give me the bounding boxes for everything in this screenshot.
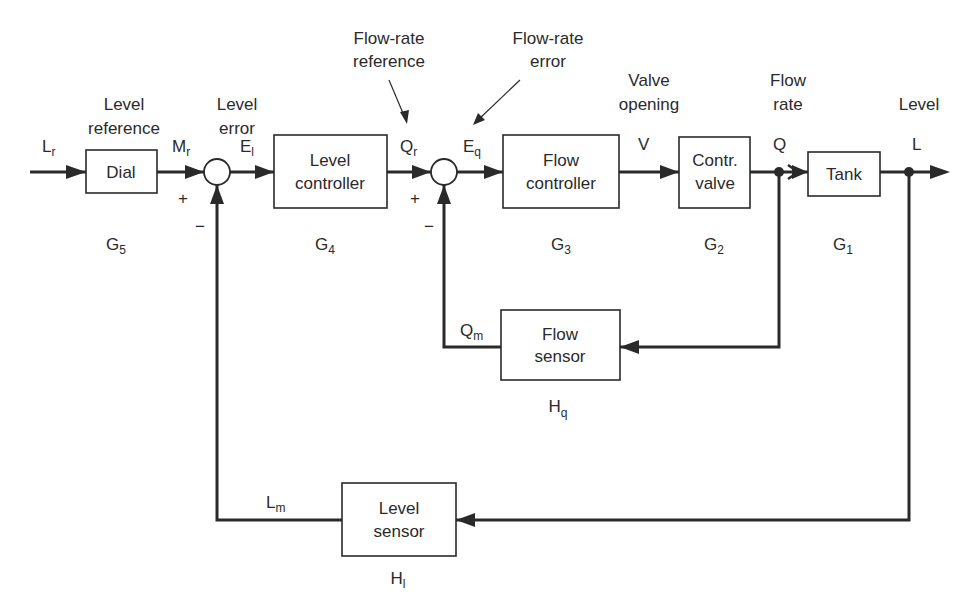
signal-Lm: Lm (266, 493, 285, 515)
annotation-flow-rate-reference: Flow-rate reference (353, 29, 425, 71)
block-dial: Dial G5 (86, 150, 157, 257)
svg-text:rate: rate (773, 95, 802, 114)
svg-text:Level: Level (217, 95, 258, 114)
signal-Qr: Qr (400, 137, 417, 159)
signal-Qm: Qm (460, 321, 483, 343)
svg-text:valve: valve (695, 174, 735, 193)
pointer-flow-rate-error (478, 80, 520, 120)
svg-text:Level: Level (899, 95, 940, 114)
svg-text:error: error (219, 119, 255, 138)
svg-text:Flow: Flow (770, 71, 807, 90)
block-control-valve: Contr. valve G2 (679, 137, 750, 257)
annotation-flow-rate-error: Flow-rate error (513, 29, 584, 71)
arrowhead-icon (437, 185, 451, 204)
plus-sign: + (178, 189, 188, 208)
svg-text:sensor: sensor (534, 347, 585, 366)
signal-L: L (912, 135, 921, 154)
svg-text:Level: Level (379, 499, 420, 518)
svg-text:Flow-rate: Flow-rate (354, 29, 425, 48)
tf-label: G4 (315, 235, 335, 257)
svg-text:Valve: Valve (628, 71, 669, 90)
minus-sign: − (195, 217, 205, 236)
block-tank: Tank G1 (808, 152, 880, 257)
signal-V: V (638, 135, 650, 154)
svg-text:Flow-rate: Flow-rate (513, 29, 584, 48)
svg-text:Flow: Flow (542, 325, 579, 344)
svg-text:Dial: Dial (106, 163, 135, 182)
block-flow-controller: Flow controller G3 (503, 135, 619, 257)
svg-text:opening: opening (619, 95, 680, 114)
svg-text:controller: controller (526, 174, 596, 193)
annotation-flow-rate: Flow rate (770, 71, 807, 114)
tf-label: G3 (551, 235, 571, 257)
block-level-controller: Level controller G4 (274, 135, 387, 257)
arrowhead-icon (185, 165, 204, 179)
tf-label: G1 (833, 235, 853, 257)
arrowhead-icon (255, 165, 274, 179)
svg-text:Contr.: Contr. (692, 151, 737, 170)
tf-label: G5 (106, 235, 126, 257)
signal-Mr: Mr (172, 137, 190, 159)
svg-text:reference: reference (353, 52, 425, 71)
arrowhead-icon (210, 185, 224, 204)
arrowhead-icon (456, 513, 475, 527)
block-flow-sensor: Flow sensor Hq (501, 310, 620, 420)
annotation-level-error: Level error (217, 95, 258, 138)
output-arrowhead-icon (930, 165, 950, 179)
arrowhead-icon (484, 165, 503, 179)
signal-Q: Q (773, 135, 786, 154)
pointer-arrowhead-icon (400, 110, 409, 124)
plus-sign: + (410, 189, 420, 208)
svg-text:error: error (530, 52, 566, 71)
svg-text:Level: Level (310, 151, 351, 170)
annotation-level-reference: Level reference (88, 95, 160, 138)
svg-text:Flow: Flow (543, 151, 580, 170)
arrowhead-icon (660, 165, 679, 179)
block-diagram: Level reference Level error Flow-rate re… (0, 0, 976, 612)
block-level-sensor: Level sensor Hl (342, 483, 456, 591)
svg-text:Tank: Tank (826, 165, 862, 184)
annotation-level: Level (899, 95, 940, 114)
svg-text:sensor: sensor (373, 522, 424, 541)
arrowhead-icon (66, 165, 86, 179)
svg-text:reference: reference (88, 119, 160, 138)
signal-El: El (240, 137, 254, 159)
tf-label: Hl (391, 569, 406, 591)
signal-Lr: Lr (42, 137, 55, 159)
tf-label: G2 (704, 235, 724, 257)
arrowhead-icon (620, 340, 639, 354)
tf-label: Hq (549, 397, 568, 420)
svg-text:Level: Level (104, 95, 145, 114)
annotation-valve-opening: Valve opening (619, 71, 680, 114)
arrowhead-icon (412, 165, 431, 179)
svg-text:controller: controller (295, 174, 365, 193)
minus-sign: − (424, 217, 434, 236)
signal-Eq: Eq (463, 137, 481, 159)
